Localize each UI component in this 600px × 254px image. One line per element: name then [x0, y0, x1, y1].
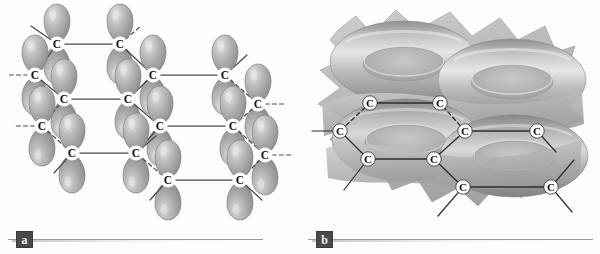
atom-label-c: C — [530, 124, 544, 138]
atom-label-c: C — [225, 118, 240, 133]
atom-label-c: C — [544, 180, 558, 194]
panel-b-pi-cloud-diagram: C C C C C — [300, 0, 600, 225]
panel-b-svg: C C C C C — [300, 0, 600, 225]
caption-rule-shadow-a — [12, 240, 268, 242]
panel-a-orbital-diagram: C C C C C — [0, 0, 300, 225]
atom-symbol: C — [430, 153, 438, 165]
atom-label-c: C — [160, 172, 175, 187]
caption-row-a: a — [0, 225, 300, 254]
atom-label-c: C — [456, 180, 470, 194]
atom-label-c: C — [427, 152, 441, 166]
atom-label-c: C — [250, 96, 265, 111]
atom-symbol: C — [261, 149, 269, 161]
atom-symbol: C — [229, 120, 237, 132]
atom-label-c: C — [145, 67, 160, 82]
atom-symbol: C — [53, 38, 61, 50]
atom-label-c: C — [34, 118, 49, 133]
atom-symbol: C — [436, 97, 444, 109]
atom-symbol: C — [533, 125, 541, 137]
caption-rule-a — [8, 239, 263, 240]
atom-label-c: C — [27, 67, 42, 82]
atom-label-c: C — [458, 124, 472, 138]
caption-rule-b — [308, 239, 593, 240]
atom-symbol: C — [38, 120, 46, 132]
atom-symbol: C — [164, 174, 172, 186]
atom-symbol: C — [221, 69, 229, 81]
atom-symbol: C — [254, 98, 262, 110]
atom-symbol: C — [132, 147, 140, 159]
atom-symbol: C — [31, 69, 39, 81]
panel-label-a: a — [16, 231, 33, 248]
atom-symbol: C — [124, 93, 132, 105]
atom-label-c: C — [433, 96, 447, 110]
atom-symbol: C — [547, 181, 555, 193]
atom-label-c: C — [120, 91, 135, 106]
atom-symbol: C — [116, 38, 124, 50]
caption-rule-shadow-b — [312, 240, 600, 242]
atom-symbol: C — [68, 147, 76, 159]
atom-label-c: C — [217, 67, 232, 82]
atom-label-c: C — [64, 145, 79, 160]
atom-symbol: C — [156, 120, 164, 132]
atom-symbol: C — [461, 125, 469, 137]
atom-symbol: C — [366, 97, 374, 109]
atom-label-c: C — [333, 124, 347, 138]
panel-label-b: b — [316, 231, 333, 248]
atom-symbol: C — [364, 153, 372, 165]
atom-symbol: C — [149, 69, 157, 81]
atom-label-c: C — [128, 145, 143, 160]
atom-label-c: C — [257, 147, 272, 162]
atom-label-c: C — [361, 152, 375, 166]
atom-symbol: C — [236, 174, 244, 186]
panel-a-svg: C C C C C — [0, 0, 300, 225]
atom-label-c: C — [49, 36, 64, 51]
atom-label-c: C — [56, 91, 71, 106]
caption-row-b: b — [300, 225, 600, 254]
atom-label-c: C — [363, 96, 377, 110]
figure-root: C C C C C — [0, 0, 600, 254]
atom-symbol: C — [60, 93, 68, 105]
atom-label-c: C — [232, 172, 247, 187]
atom-label-c: C — [152, 118, 167, 133]
atom-symbol: C — [459, 181, 467, 193]
atom-symbol: C — [336, 125, 344, 137]
atom-label-c: C — [112, 36, 127, 51]
